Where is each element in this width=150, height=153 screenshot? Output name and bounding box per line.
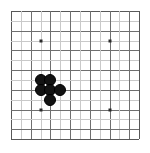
go-stone-black[interactable] <box>54 84 66 96</box>
grid-line-vertical <box>129 11 130 139</box>
star-point <box>108 39 111 42</box>
star-point <box>39 39 42 42</box>
grid-line-horizontal <box>11 129 139 130</box>
go-board-grid[interactable] <box>11 11 139 139</box>
grid-line-horizontal <box>11 139 139 140</box>
go-board-diagram <box>0 0 150 153</box>
grid-line-vertical <box>139 11 140 139</box>
grid-line-vertical <box>119 11 120 139</box>
star-point <box>108 108 111 111</box>
go-stone-black[interactable] <box>44 94 56 106</box>
star-point <box>39 108 42 111</box>
